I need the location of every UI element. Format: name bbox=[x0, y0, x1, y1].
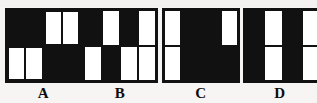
figure-a bbox=[5, 8, 82, 83]
figure-d-cell bbox=[245, 46, 264, 82]
figure-b-cell bbox=[138, 46, 156, 82]
figure-a-bar bbox=[62, 11, 79, 45]
figure-b-cell bbox=[120, 46, 138, 82]
figure-a-bar bbox=[45, 11, 62, 45]
figure-label-a: A bbox=[5, 84, 82, 103]
page-top-margin bbox=[0, 0, 317, 7]
figure-b-cell bbox=[84, 10, 102, 46]
figure-panel: A B C D bbox=[0, 0, 317, 103]
figure-label-d: D bbox=[243, 84, 317, 103]
figure-b-cell bbox=[138, 10, 156, 46]
figure-d-cell bbox=[264, 46, 283, 82]
figure-d-cell bbox=[302, 46, 317, 82]
figure-c-cell-left-top bbox=[164, 10, 181, 46]
figure-c-cell-right-top bbox=[221, 10, 238, 46]
figure-label-b: B bbox=[82, 84, 158, 103]
figure-a-quadrant-top-left bbox=[7, 10, 44, 46]
figure-d-cell bbox=[283, 10, 302, 46]
figure-d-cell bbox=[245, 10, 264, 46]
figure-b-cell bbox=[120, 10, 138, 46]
figure-d bbox=[243, 8, 317, 83]
figure-c bbox=[162, 8, 240, 83]
figure-c-cell-right-bottom bbox=[221, 46, 238, 82]
figure-b bbox=[82, 8, 158, 83]
figure-d-cell bbox=[283, 46, 302, 82]
figure-b-cell bbox=[102, 10, 120, 46]
figure-a-quadrant-bottom-left bbox=[7, 46, 44, 82]
figure-c-cell-center bbox=[181, 10, 222, 81]
figure-b-cell bbox=[102, 46, 120, 82]
figure-a-bar bbox=[25, 47, 42, 81]
figure-d-cell bbox=[302, 10, 317, 46]
figure-c-cell-left-bottom bbox=[164, 46, 181, 82]
figure-b-cell bbox=[84, 46, 102, 82]
figure-a-quadrant-top-right bbox=[44, 10, 81, 46]
figure-d-cell bbox=[264, 10, 283, 46]
figure-a-bar bbox=[8, 47, 25, 81]
figure-a-quadrant-bottom-right bbox=[44, 46, 81, 82]
figure-label-c: C bbox=[162, 84, 240, 103]
